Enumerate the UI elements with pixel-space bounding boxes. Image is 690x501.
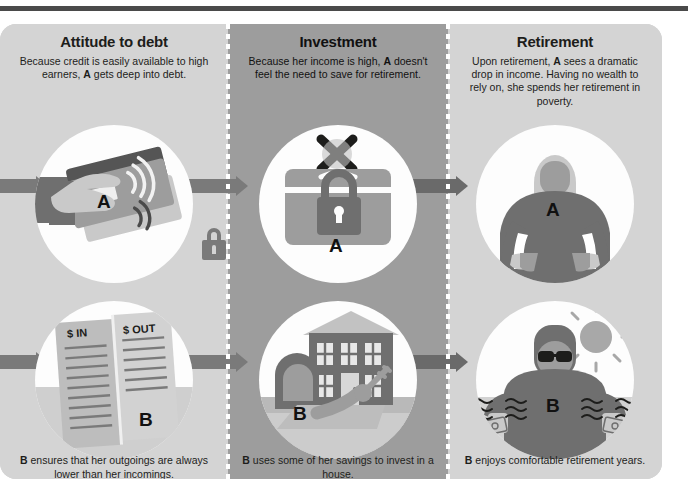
- caption-text: enjoys comfortable retirement years.: [472, 454, 645, 466]
- illustration-person-empty-pockets: A: [476, 125, 634, 283]
- column-description: Because credit is easily available to hi…: [10, 55, 218, 82]
- column-attitude-to-debt: Attitude to debt Because credit is easil…: [0, 24, 228, 479]
- infographic-page: Attitude to debt Because credit is easil…: [0, 0, 690, 501]
- illustration-label-a: A: [97, 191, 111, 213]
- column-header: Investment Because her income is high, A…: [228, 24, 448, 81]
- column-caption: B enjoys comfortable retirement years.: [448, 454, 662, 468]
- illustration-label-a: A: [329, 235, 343, 257]
- desc-text: Because her income is high,: [249, 55, 384, 67]
- column-caption: B ensures that her outgoings are always …: [0, 454, 228, 479]
- column-title: Attitude to debt: [10, 34, 218, 51]
- column-divider-1: [226, 24, 230, 479]
- right-arrow-icon: [186, 352, 248, 372]
- illustration-label-b: B: [546, 395, 560, 417]
- column-header: Attitude to debt Because credit is easil…: [0, 24, 228, 81]
- column-title: Investment: [238, 34, 438, 51]
- caption-text: ensures that her outgoings are always lo…: [28, 454, 208, 479]
- column-retirement: Retirement Upon retirement, A sees a dra…: [448, 24, 662, 479]
- illustration-label-b: B: [293, 403, 307, 425]
- column-description: Upon retirement, A sees a dramatic drop …: [458, 55, 652, 109]
- ledger-header-out: $ OUT: [123, 322, 156, 336]
- desc-text: Upon retirement,: [472, 55, 553, 67]
- column-description: Because her income is high, A doesn't fe…: [238, 55, 438, 82]
- illustration-label-b: B: [139, 409, 153, 431]
- illustration-locked-savings-chest: A: [259, 125, 417, 283]
- illustration-label-a: A: [546, 199, 560, 221]
- person-label-b: B: [20, 454, 28, 466]
- person-label-a: A: [83, 68, 91, 80]
- column-caption: B uses some of her savings to invest in …: [228, 454, 448, 479]
- right-arrow-icon: [186, 176, 248, 196]
- infographic-board: Attitude to debt Because credit is easil…: [0, 24, 662, 479]
- desc-text: gets deep into debt.: [91, 68, 186, 80]
- person-label-a: A: [383, 55, 391, 67]
- column-investment: Investment Because her income is high, A…: [228, 24, 448, 479]
- person-label-b: B: [242, 454, 250, 466]
- column-title: Retirement: [458, 34, 652, 51]
- caption-text: uses some of her savings to invest in a …: [250, 454, 434, 479]
- column-header: Retirement Upon retirement, A sees a dra…: [448, 24, 662, 108]
- illustration-comfortable-retirement: B: [476, 301, 634, 459]
- illustration-income-outgoings-ledger: $ IN $ OUT B: [35, 301, 193, 459]
- padlock-icon: [202, 228, 226, 260]
- top-divider-rule: [0, 6, 688, 11]
- illustration-investing-in-house: B: [259, 301, 417, 459]
- column-divider-2: [446, 24, 450, 479]
- illustration-hand-holding-credit-cards: A: [35, 125, 193, 283]
- person-label-a: A: [553, 55, 561, 67]
- ledger-header-in: $ IN: [67, 326, 88, 339]
